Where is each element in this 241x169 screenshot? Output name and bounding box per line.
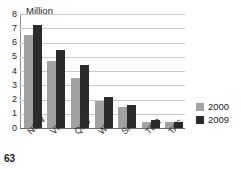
x-axis-tick-labels: NSWVICQLDWASATERTAS <box>0 128 241 152</box>
bar-group <box>24 14 42 128</box>
bar-group <box>118 14 136 128</box>
bar <box>56 50 65 128</box>
y-axis-tick-labels: 012345678 <box>0 0 17 148</box>
y-tick-label: 2 <box>3 95 17 104</box>
bar-group <box>165 14 183 128</box>
page-number: 63 <box>4 153 15 164</box>
legend-swatch-icon <box>196 103 204 111</box>
y-tick-label: 4 <box>3 67 17 76</box>
y-tick-label: 1 <box>3 109 17 118</box>
bar-group <box>71 14 89 128</box>
chart-legend: 20002009 <box>196 101 241 127</box>
legend-label: 2000 <box>208 102 229 112</box>
bar-group <box>47 14 65 128</box>
y-tick-label: 5 <box>3 52 17 61</box>
legend-label: 2009 <box>208 115 229 125</box>
legend-item[interactable]: 2009 <box>196 114 241 126</box>
legend-swatch-icon <box>196 116 204 124</box>
y-tick-label: 8 <box>3 10 17 19</box>
y-tick-label: 6 <box>3 38 17 47</box>
y-tick-label: 3 <box>3 81 17 90</box>
bar <box>71 78 80 128</box>
bar <box>33 25 42 128</box>
bar-group <box>95 14 113 128</box>
bar-group <box>142 14 160 128</box>
y-tick-label: 7 <box>3 24 17 33</box>
legend-item[interactable]: 2000 <box>196 101 241 113</box>
plot-area <box>20 14 185 128</box>
bar <box>47 61 56 128</box>
bar <box>24 35 33 128</box>
